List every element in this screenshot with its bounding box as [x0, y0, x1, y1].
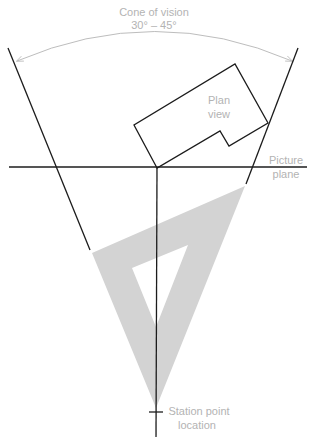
picture-plane-label-line2: plane [273, 168, 300, 180]
station-point-label-line1: Station point [168, 405, 229, 417]
cone-of-vision-arc [17, 32, 292, 62]
picture-plane-label-line1: Picture [269, 154, 303, 166]
perspective-setup-diagram: Cone of vision 30° – 45° Plan view Pictu… [0, 0, 313, 443]
plan-view-label-line1: Plan [208, 94, 230, 106]
plan-view-label-line2: view [208, 108, 230, 120]
cone-angle-label: 30° – 45° [131, 19, 177, 31]
cone-of-vision-title: Cone of vision [119, 6, 189, 18]
left-sight-line [8, 48, 90, 250]
triangle-drafting-tool [92, 186, 245, 408]
station-point-label-line2: location [178, 419, 216, 431]
plan-view-outline [134, 64, 268, 168]
